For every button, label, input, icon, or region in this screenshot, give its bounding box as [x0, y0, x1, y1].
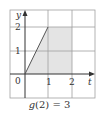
caption-value: (2) = 3 — [35, 99, 70, 110]
origin-label: 0 — [15, 76, 21, 86]
caption: g(2) = 3 — [0, 99, 99, 110]
y-tick-1: 1 — [15, 46, 21, 56]
y-tick-2: 2 — [15, 22, 21, 32]
t-axis-arrow-icon — [89, 72, 95, 77]
shaded-area — [25, 27, 72, 74]
t-tick-1: 1 — [46, 77, 52, 87]
y-axis-label: y — [15, 10, 22, 20]
t-tick-2: 2 — [69, 77, 75, 87]
y-axis-arrow-icon — [23, 10, 28, 16]
t-axis-label: t — [88, 77, 92, 87]
